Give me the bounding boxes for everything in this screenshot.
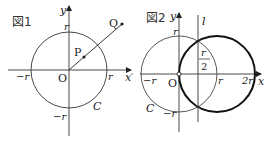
diagram-canvas: 図1 y x O r r −r −r C P Q 図2 xyxy=(0,0,267,142)
circle-c-label: C xyxy=(93,100,102,113)
circle-c-label: C xyxy=(146,102,155,115)
tick-r-x: r xyxy=(108,71,114,82)
origin-label: O xyxy=(168,77,177,90)
point-p-label: P xyxy=(74,46,82,59)
x-axis-label: x xyxy=(258,75,265,88)
point-p-dot xyxy=(82,55,85,58)
figure-2-caption: 図2 xyxy=(146,11,166,25)
point-q-dot xyxy=(120,22,123,25)
point-q-label: Q xyxy=(109,17,118,30)
tick-neg-r-x: −r xyxy=(143,75,157,86)
origin-open-point xyxy=(177,72,181,76)
origin-label: O xyxy=(58,72,67,85)
half-r-denominator: 2 xyxy=(201,61,207,72)
y-axis-label: y xyxy=(169,10,177,23)
figure-2: 図2 y l r x O r 2r −r −r C r 2 xyxy=(131,10,265,132)
tick-neg-r-y: −r xyxy=(53,111,67,122)
tick-neg-r-x: −r xyxy=(16,71,30,82)
tick-neg-r-y: −r xyxy=(163,108,177,119)
half-r-numerator: r xyxy=(201,47,207,58)
line-l-label: l xyxy=(202,15,206,28)
tick-r-y: r xyxy=(173,26,179,37)
y-axis-label: y xyxy=(59,4,67,17)
half-r-fraction: r 2 xyxy=(199,47,210,72)
tick-2r-x: 2r xyxy=(241,75,254,86)
x-axis-label: x xyxy=(125,71,132,84)
figure-1-caption: 図1 xyxy=(12,15,32,29)
figure-1: 図1 y x O r r −r −r C P Q xyxy=(8,4,132,136)
tick-r-x: r xyxy=(218,75,224,86)
